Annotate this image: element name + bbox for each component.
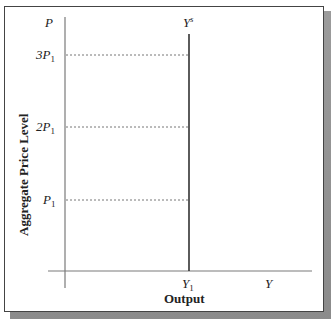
curve-label: Ys [183, 16, 193, 29]
y-axis-symbol-text: P [45, 15, 53, 30]
x-axis-symbol: Y [265, 277, 272, 290]
y-tick-base: P [43, 192, 51, 207]
y-tick-2p1: 2P1 [36, 120, 55, 136]
y-tick-sub: 1 [50, 54, 55, 64]
x-axis-title: Output [164, 292, 204, 305]
y-tick-sub: 1 [51, 199, 56, 209]
y-tick-3p1: 3P1 [36, 48, 55, 64]
y-axis-symbol: P [45, 16, 53, 29]
x-axis-symbol-text: Y [265, 276, 272, 291]
curve-label-sup: s [190, 15, 193, 24]
y-tick-p1: P1 [43, 193, 55, 209]
y-axis-title: Aggregate Price Level [17, 114, 30, 236]
y-tick-sub: 1 [50, 126, 55, 136]
